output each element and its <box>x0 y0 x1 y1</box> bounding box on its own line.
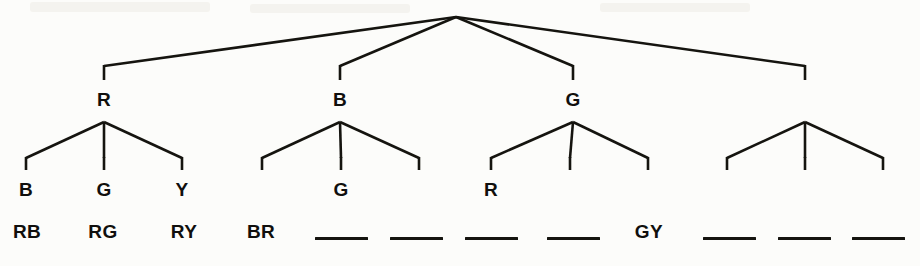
branch-n4-1 <box>727 122 805 158</box>
terminal-label-2: RG <box>88 222 117 241</box>
blank-terminal-dash-3 <box>465 237 518 240</box>
leaf-label-3: Y <box>176 180 189 199</box>
blank-terminal-dash-2 <box>390 237 443 240</box>
terminal-label-4: BR <box>247 222 275 241</box>
blank-terminal-dash-4 <box>547 237 600 240</box>
node-label-n2: B <box>333 90 347 109</box>
terminal-label-3: RY <box>171 222 198 241</box>
terminal-label-5: GY <box>635 222 663 241</box>
syntax-tree-figure: RBGBGYGRRBRGRYBRGY <box>0 0 920 266</box>
blank-terminal-dash-1 <box>315 237 368 240</box>
branch-n3-3 <box>573 122 648 158</box>
node-label-n1: R <box>97 90 111 109</box>
branch-n1-1 <box>26 122 104 158</box>
leaf-label-2: G <box>97 180 112 199</box>
branch-n1-3 <box>104 122 182 158</box>
blank-terminal-dash-6 <box>778 237 831 240</box>
leaf-label-5: G <box>334 180 349 199</box>
node-label-n3: G <box>566 90 581 109</box>
blank-terminal-dash-5 <box>703 237 756 240</box>
terminal-label-1: RB <box>13 222 41 241</box>
tree-branches <box>0 0 920 266</box>
root-branch-1 <box>104 17 456 66</box>
branch-n3-1 <box>491 122 573 158</box>
branch-n4-3 <box>805 122 883 158</box>
leaf-label-1: B <box>19 180 33 199</box>
branch-n2-3 <box>340 122 419 158</box>
branch-n3-2 <box>570 122 573 158</box>
leaf-label-7: R <box>484 180 498 199</box>
blank-terminal-dash-7 <box>852 237 905 240</box>
branch-n2-1 <box>262 122 340 158</box>
branch-n2-2 <box>340 122 341 158</box>
root-branch-4 <box>456 17 805 66</box>
